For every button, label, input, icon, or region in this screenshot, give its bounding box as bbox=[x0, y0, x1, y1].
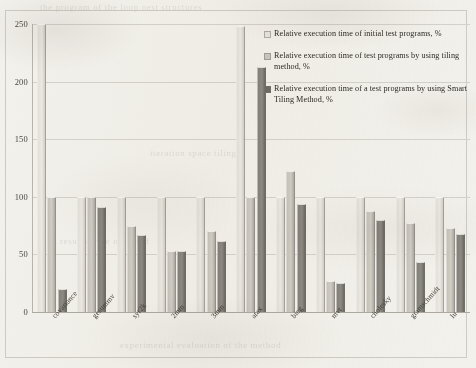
bar bbox=[47, 197, 56, 312]
bar bbox=[446, 228, 455, 312]
legend-label: Relative execution time of a test progra… bbox=[274, 83, 469, 105]
bar bbox=[316, 197, 325, 312]
bar bbox=[286, 171, 295, 312]
bar bbox=[217, 241, 226, 312]
y-tick-label: 50 bbox=[19, 249, 28, 259]
bar bbox=[236, 26, 245, 312]
bar bbox=[87, 197, 96, 312]
legend-item[interactable]: Relative execution time of initial test … bbox=[264, 28, 469, 39]
bar bbox=[406, 223, 415, 312]
legend-swatch-icon bbox=[264, 31, 271, 38]
bar bbox=[117, 197, 126, 312]
bar-group bbox=[191, 24, 231, 312]
bar bbox=[366, 211, 375, 312]
y-tick-label: 200 bbox=[15, 77, 28, 87]
bar bbox=[246, 197, 255, 312]
bar bbox=[297, 204, 306, 312]
bar bbox=[276, 197, 285, 312]
y-tick-label: 100 bbox=[15, 192, 28, 202]
y-axis-tick-labels: 050100150200250 bbox=[0, 24, 28, 312]
legend-item[interactable]: Relative execution time of test programs… bbox=[264, 50, 469, 72]
y-tick-label: 250 bbox=[15, 19, 28, 29]
legend-swatch-icon bbox=[264, 53, 271, 60]
legend-item[interactable]: Relative execution time of a test progra… bbox=[264, 83, 469, 105]
bar bbox=[196, 197, 205, 312]
bar-group bbox=[151, 24, 191, 312]
bar bbox=[456, 234, 465, 312]
bar-chart: 050100150200250 covariancegesummvsyr2k2m… bbox=[0, 0, 476, 368]
legend-label: Relative execution time of test programs… bbox=[274, 50, 469, 72]
bar bbox=[207, 231, 216, 312]
legend-swatch-icon bbox=[264, 86, 271, 93]
x-axis-tick-labels: covariancegesummvsyr2k2mm3mmataxbicgmvtc… bbox=[32, 314, 470, 366]
bar bbox=[137, 235, 146, 312]
y-tick-label: 0 bbox=[24, 307, 28, 317]
bar-group bbox=[32, 24, 72, 312]
bar bbox=[157, 197, 166, 312]
bar bbox=[396, 197, 405, 312]
chart-legend: Relative execution time of initial test … bbox=[264, 28, 469, 116]
bar-group bbox=[72, 24, 112, 312]
bar bbox=[167, 251, 176, 312]
bar bbox=[37, 24, 46, 312]
y-tick-label: 150 bbox=[15, 134, 28, 144]
bar bbox=[356, 197, 365, 312]
legend-label: Relative execution time of initial test … bbox=[274, 28, 442, 39]
bar-group bbox=[112, 24, 152, 312]
bar bbox=[127, 226, 136, 312]
